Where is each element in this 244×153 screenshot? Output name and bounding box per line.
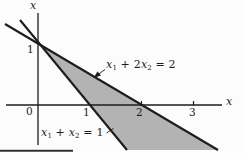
y-axis-label: x bbox=[30, 0, 36, 11]
line2-rhs: 1 bbox=[96, 126, 103, 139]
line2-plus: + bbox=[52, 126, 69, 139]
y-tick-1: 1 bbox=[27, 44, 34, 55]
line1-plus: + bbox=[117, 58, 134, 71]
x-tick-3: 3 bbox=[189, 107, 196, 118]
plot-canvas bbox=[0, 0, 244, 153]
line2-eq: = bbox=[80, 126, 97, 139]
line1-eq: = bbox=[152, 58, 169, 71]
scan-artifact-bar bbox=[0, 150, 73, 152]
label-arrow-icon bbox=[94, 72, 102, 79]
x-tick-0: 0 bbox=[26, 106, 33, 117]
x-tick-2: 2 bbox=[136, 107, 143, 118]
line1-coef: 2 bbox=[134, 58, 141, 71]
line1-equation-label: x1 + 2x2 = 2 bbox=[106, 59, 176, 72]
line2-equation-label: x1 + x2 = 1 bbox=[41, 127, 104, 140]
x-tick-1: 1 bbox=[83, 107, 90, 118]
x-axis-label: x bbox=[226, 96, 232, 107]
line1-rhs: 2 bbox=[169, 58, 176, 71]
textbook-plot-figure: x x 0 1 2 3 1 x1 + 2x2 = 2 x1 + x2 = 1 bbox=[0, 0, 244, 153]
